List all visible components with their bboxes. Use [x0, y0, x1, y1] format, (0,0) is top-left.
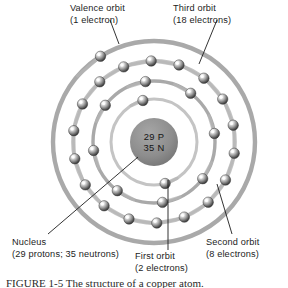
label-second-orbit: Second orbit (8 electrons) [206, 237, 259, 260]
label-third-orbit-line1: Third orbit [173, 3, 216, 13]
label-valence-orbit-line1: Valence orbit [70, 3, 125, 13]
figure-caption: FIGURE 1-5 The structure of a copper ato… [6, 277, 204, 288]
label-nucleus-line1: Nucleus [12, 237, 46, 247]
label-second-orbit-line2: (8 electrons) [206, 249, 259, 261]
label-third-orbit: Third orbit (18 electrons) [173, 3, 231, 26]
label-second-orbit-line1: Second orbit [206, 237, 259, 247]
label-first-orbit-line1: First orbit [135, 251, 175, 261]
label-third-orbit-line2: (18 electrons) [173, 15, 231, 27]
third-leader [199, 20, 217, 64]
label-valence-orbit: Valence orbit (1 electron) [70, 3, 125, 26]
nucleus-leader [48, 157, 138, 234]
label-first-orbit-line2: (2 electrons) [135, 263, 188, 275]
label-nucleus-line2: (29 protons; 35 neutrons) [12, 249, 119, 261]
label-valence-orbit-line2: (1 electron) [70, 15, 125, 27]
figure-canvas: 29 P35 N Valence orbit (1 electron) Thir… [0, 0, 288, 288]
label-nucleus: Nucleus (29 protons; 35 neutrons) [12, 237, 119, 260]
second-leader [217, 184, 232, 234]
label-first-orbit: First orbit (2 electrons) [135, 251, 188, 274]
